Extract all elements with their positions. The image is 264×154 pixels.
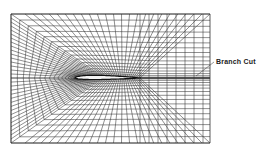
mesh-grid: [0, 0, 264, 154]
c-grid-mesh-diagram: Branch Cut: [0, 0, 264, 154]
airfoil-shape: [75, 75, 140, 79]
branch-cut-label: Branch Cut: [216, 58, 256, 65]
